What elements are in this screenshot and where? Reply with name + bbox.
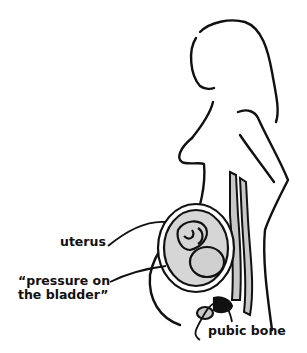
label-pressure-on-bladder: “pressure on the bladder” [18,274,110,302]
face-outline [191,38,214,89]
leader-pressure [110,266,166,282]
neck-front [192,102,213,138]
label-pubic-bone: pubic bone [208,324,286,338]
fetus-head [190,247,224,277]
label-uterus: uterus [60,235,106,249]
label-pressure-line1: “pressure on [18,274,110,288]
label-pressure-line2: the bladder” [18,288,110,302]
back-tissue [240,178,252,315]
